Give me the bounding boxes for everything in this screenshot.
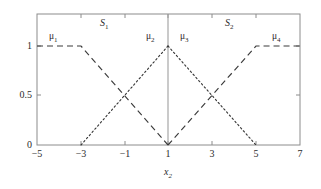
y-tick-label-1: 1: [6, 40, 32, 51]
curve-label-mu2: μ2: [146, 31, 155, 44]
x-tick-label-1: 1: [158, 148, 178, 159]
curve-mu4: [168, 46, 300, 145]
x-tick-label-3: 3: [202, 148, 222, 159]
curve-label-mu1-subscript: 1: [54, 36, 58, 44]
curve-label-mu4-subscript: 4: [277, 36, 281, 44]
region-label-s2: S2: [225, 17, 234, 31]
x-tick-label-7: 7: [290, 148, 310, 159]
x-tick-label--1: −1: [115, 148, 135, 159]
y-tick-label-0p5: 0.5: [6, 89, 32, 100]
curve-label-mu1: μ1: [49, 31, 58, 44]
chart-figure: 0 0.5 1 −5 −3 −1 1 3 5 7 x2 S1 S2 μ1 μ2 …: [0, 0, 321, 189]
plot-canvas: [0, 0, 321, 189]
x-tick-label--3: −3: [71, 148, 91, 159]
region-label-s1-subscript: 1: [105, 23, 109, 31]
x-axis-title: x2: [148, 166, 188, 180]
region-label-s2-subscript: 2: [230, 23, 234, 31]
curve-label-mu2-subscript: 2: [151, 36, 155, 44]
x-axis-title-subscript: 2: [168, 172, 172, 180]
curve-label-mu3: μ3: [180, 31, 189, 44]
x-tick-label--5: −5: [27, 148, 47, 159]
curve-mu1: [37, 46, 168, 145]
x-tick-label-5: 5: [246, 148, 266, 159]
region-label-s1: S1: [100, 17, 109, 31]
curve-label-mu4: μ4: [272, 31, 281, 44]
curve-label-mu3-subscript: 3: [185, 36, 189, 44]
